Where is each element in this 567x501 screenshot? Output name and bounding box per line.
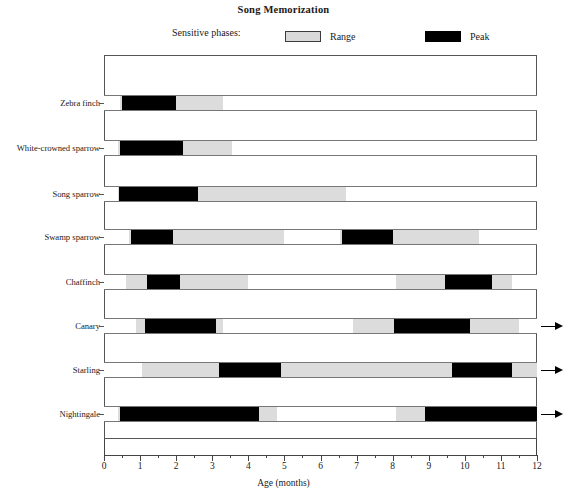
x-axis-tick-label: 7	[347, 461, 367, 471]
x-axis-tick	[411, 455, 412, 458]
y-axis-tick	[99, 194, 104, 195]
y-axis-label-song-sparrow: Song sparrow	[0, 189, 100, 199]
table-row	[104, 229, 537, 245]
x-axis-tick-label: 12	[527, 461, 547, 471]
legend-item-range: Range	[285, 26, 356, 42]
bar-segment-peak	[147, 275, 179, 289]
x-axis-tick-label: 10	[455, 461, 475, 471]
bar-segment-peak	[131, 230, 172, 244]
bar-segment-peak	[120, 407, 259, 421]
x-axis-tick	[158, 455, 159, 458]
x-axis-tick-label: 1	[130, 461, 150, 471]
bar-rows	[104, 55, 537, 439]
x-axis-tick-label: 2	[166, 461, 186, 471]
arrow-head	[555, 366, 563, 374]
table-row	[104, 140, 537, 156]
arrow-head	[555, 410, 563, 418]
y-axis-label-white-crowned-sparrow: White-crowned sparrow	[0, 143, 100, 153]
x-axis-tick-label: 11	[491, 461, 511, 471]
table-row	[104, 186, 537, 202]
y-axis-tick	[99, 237, 104, 238]
y-axis-tick	[99, 103, 104, 104]
x-axis-left-cap	[104, 439, 105, 456]
y-axis-label-canary: Canary	[0, 321, 100, 331]
legend-swatch-peak	[425, 31, 461, 42]
x-axis-tick	[230, 455, 231, 458]
x-axis-tick	[447, 455, 448, 458]
continuation-arrow-icon	[541, 322, 563, 331]
chart-title: Song Memorization	[0, 4, 567, 15]
table-row	[104, 274, 537, 290]
y-axis-label-chaffinch: Chaffinch	[0, 277, 100, 287]
x-axis-tick	[375, 455, 376, 458]
x-axis-tick	[122, 455, 123, 458]
bar-segment-peak	[445, 275, 492, 289]
legend-label-peak: Peak	[470, 31, 489, 42]
x-axis-tick	[194, 455, 195, 458]
x-axis-right-cap	[536, 439, 537, 456]
legend-label-range: Range	[330, 31, 356, 42]
bar-segment-peak	[219, 363, 280, 377]
bar-segment-peak	[119, 187, 198, 201]
y-axis-tick	[99, 148, 104, 149]
x-axis-title: Age (months)	[0, 478, 567, 488]
y-axis-label-nightingale: Nightingale	[0, 409, 100, 419]
x-axis-tick-label: 3	[202, 461, 222, 471]
y-axis-tick	[99, 370, 104, 371]
y-axis-tick	[99, 326, 104, 327]
bar-segment-range	[126, 275, 249, 289]
legend-swatch-range	[285, 31, 321, 42]
bar-segment-peak	[120, 141, 183, 155]
x-axis-tick-label: 5	[274, 461, 294, 471]
table-row	[104, 362, 537, 378]
x-axis-tick-label: 6	[311, 461, 331, 471]
bar-segment-peak	[394, 319, 470, 333]
arrow-head	[555, 322, 563, 330]
y-axis-tick	[99, 282, 104, 283]
x-axis-tick	[302, 455, 303, 458]
x-axis-tick-label: 4	[238, 461, 258, 471]
x-axis-tick-label: 8	[383, 461, 403, 471]
legend-caption: Sensitive phases:	[172, 27, 241, 38]
y-axis-label-starling: Starling	[0, 365, 100, 375]
x-axis-tick	[483, 455, 484, 458]
song-memorization-chart: Song Memorization Sensitive phases: Rang…	[0, 0, 567, 501]
x-axis-tick-label: 0	[94, 461, 114, 471]
bar-segment-peak	[342, 230, 393, 244]
continuation-arrow-icon	[541, 366, 563, 375]
table-row	[104, 318, 537, 334]
bar-segment-peak	[122, 96, 176, 110]
y-axis-tick	[99, 414, 104, 415]
x-axis-tick	[519, 455, 520, 458]
x-axis-tick	[339, 455, 340, 458]
legend-item-peak: Peak	[425, 26, 489, 42]
table-row	[104, 406, 537, 422]
bar-segment-peak	[452, 363, 512, 377]
y-axis-label-swamp-sparrow: Swamp sparrow	[0, 232, 100, 242]
table-row	[104, 95, 537, 111]
chart-legend: Sensitive phases: Range Peak	[0, 26, 567, 44]
y-axis-label-zebra-finch: Zebra finch	[0, 98, 100, 108]
x-axis-tick-label: 9	[419, 461, 439, 471]
x-axis-tick	[266, 455, 267, 458]
y-axis-labels: Zebra finchWhite-crowned sparrowSong spa…	[0, 55, 100, 439]
bar-segment-peak	[145, 319, 215, 333]
bar-segment-peak	[425, 407, 537, 421]
continuation-arrow-icon	[541, 410, 563, 419]
